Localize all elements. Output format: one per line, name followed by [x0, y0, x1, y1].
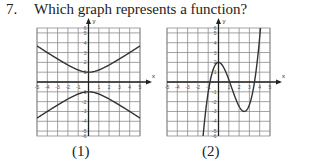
graph-1-caption: (1): [72, 143, 90, 160]
x-tick-label: 5: [269, 84, 272, 90]
y-axis-arrow: [86, 18, 91, 24]
y-tick-label: 5: [84, 30, 87, 36]
y-tick-label: 4: [84, 40, 87, 46]
x-tick-label: 5: [139, 84, 142, 90]
y-tick-label: -3: [212, 108, 217, 114]
y-tick-label: -2: [212, 99, 217, 105]
y-tick-label: -4: [212, 118, 217, 124]
graph-2[interactable]: xy-5-4-3-2-112345654321-1-2-3-4-5-6: [155, 16, 285, 146]
y-tick-label: -2: [82, 99, 87, 105]
y-tick-label: 1: [214, 69, 217, 75]
question-prompt: Which graph represents a function?: [34, 1, 247, 17]
y-tick-label: -4: [82, 118, 87, 124]
x-tick-label: -3: [55, 84, 60, 90]
x-tick-label: 4: [258, 84, 261, 90]
x-axis-label: x: [282, 73, 285, 79]
y-tick-label: -6: [82, 133, 87, 139]
y-tick-label: 5: [214, 30, 217, 36]
y-tick-label: 3: [214, 50, 217, 56]
x-tick-label: 2: [238, 84, 241, 90]
x-tick-label: 4: [128, 84, 131, 90]
y-tick-label: 3: [84, 50, 87, 56]
x-tick-label: 2: [108, 84, 111, 90]
x-tick-label: -5: [35, 84, 40, 90]
y-tick-label: -1: [212, 89, 217, 95]
x-axis-arrow: [146, 80, 152, 85]
y-axis-label: y: [223, 18, 226, 24]
x-tick-label: -1: [76, 84, 81, 90]
x-tick-label: -2: [196, 84, 201, 90]
y-axis-label: y: [93, 18, 96, 24]
y-tick-label: 4: [214, 40, 217, 46]
x-tick-label: 3: [118, 84, 121, 90]
x-tick-label: -4: [175, 84, 180, 90]
x-tick-label: -5: [165, 84, 170, 90]
x-tick-label: 1: [97, 84, 100, 90]
x-tick-label: -4: [45, 84, 50, 90]
graph-2-caption: (2): [202, 143, 220, 160]
x-axis-arrow: [276, 80, 282, 85]
x-tick-label: -3: [185, 84, 190, 90]
y-tick-label: -6: [212, 133, 217, 139]
y-tick-label: 2: [84, 59, 87, 65]
x-tick-label: 3: [248, 84, 251, 90]
y-tick-label: -3: [82, 108, 87, 114]
y-axis-arrow: [216, 18, 221, 24]
x-tick-label: -2: [66, 84, 71, 90]
graph-1[interactable]: xy-5-4-3-2-112345654321-1-2-3-4-5-6: [25, 16, 155, 146]
